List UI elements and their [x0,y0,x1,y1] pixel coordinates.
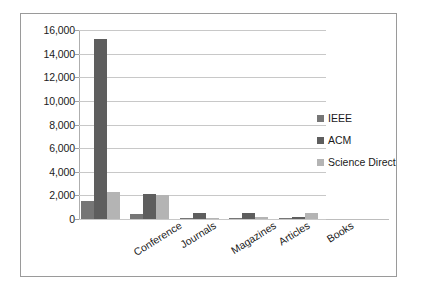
y-tick-label: 6,000 [23,142,75,154]
x-axis: ConferenceJournalsMagazinesArticlesBooks [79,219,326,277]
chart-container: 02,0004,0006,0008,00010,00012,00014,0001… [20,13,397,277]
legend-swatch-icon [317,159,324,166]
legend-label: ACM [328,134,351,146]
legend-item[interactable]: ACM [317,129,396,151]
y-axis: 02,0004,0006,0008,00010,00012,00014,0001… [21,30,75,219]
plot-area [79,30,326,219]
legend-swatch-icon [317,115,324,122]
y-tick-label: 10,000 [23,95,75,107]
bar-group [229,30,268,219]
legend-item[interactable]: Science Direct [317,151,396,173]
x-tick-label: Articles [276,219,312,247]
bar [156,195,169,219]
y-tick-label: 8,000 [23,119,75,131]
y-tick-label: 2,000 [23,189,75,201]
y-tick-label: 12,000 [23,71,75,83]
y-tick-label: 4,000 [23,166,75,178]
bar [94,39,107,219]
x-tick-label: Books [325,219,356,245]
legend-item[interactable]: IEEE [317,107,396,129]
bar-group [130,30,169,219]
y-tick-label: 14,000 [23,48,75,60]
legend-swatch-icon [317,137,324,144]
legend-label: IEEE [328,112,352,124]
bar-group [279,30,318,219]
x-tick-label: Journals [178,219,218,250]
x-tick-label: Conference [131,219,183,258]
y-tick-label: 16,000 [23,24,75,36]
x-tick-label: Magazines [229,219,278,256]
bar-group [180,30,219,219]
legend-label: Science Direct [328,156,396,168]
bar [143,194,156,219]
chart-legend: IEEEACMScience Direct [317,107,396,173]
bar [107,192,120,219]
bar [81,201,94,219]
y-tick-label: 0 [23,213,75,225]
bar-group [81,30,120,219]
